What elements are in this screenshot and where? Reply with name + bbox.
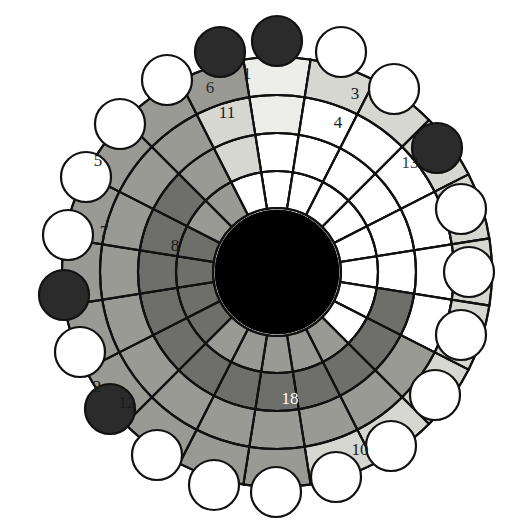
sector-cell-r1-s5 [377,250,416,293]
center-hub [215,210,339,334]
node-10[interactable] [251,467,301,517]
node-1[interactable] [316,27,366,77]
sector-cell-r2-s0 [249,95,304,135]
node-3[interactable] [412,123,462,173]
label-10: 10 [352,440,369,459]
node-9[interactable] [311,452,361,502]
node-8[interactable] [366,421,416,471]
label-11: 11 [219,103,235,122]
node-7[interactable] [410,370,460,420]
radial-ring-diagram: 163114135782121810 [0,0,515,525]
figure-canvas: 163114135782121810 [0,0,515,525]
node-20[interactable] [195,27,245,77]
label-3: 3 [351,84,360,103]
label-12: 12 [119,393,136,412]
node-18[interactable] [95,99,145,149]
node-15[interactable] [39,270,89,320]
label-4: 4 [334,113,343,132]
label-13: 13 [402,153,419,172]
label-1: 1 [243,64,252,83]
label-6: 6 [206,78,215,97]
node-17[interactable] [61,152,111,202]
sector-cell-r1-s15 [138,250,177,293]
label-18: 18 [282,389,299,408]
sector-cell-r2-s10 [249,409,304,449]
node-19[interactable] [142,55,192,105]
node-4[interactable] [436,184,486,234]
node-11[interactable] [189,460,239,510]
node-12[interactable] [132,430,182,480]
label-7: 7 [100,222,109,241]
label-5: 5 [94,151,103,170]
label-2: 2 [93,377,102,396]
sector-cell-r2-s15 [100,244,140,299]
sector-cell-r1-s0 [255,133,298,172]
node-5[interactable] [444,247,494,297]
label-8: 8 [171,236,180,255]
node-6[interactable] [436,310,486,360]
node-16[interactable] [43,210,93,260]
node-14[interactable] [55,327,105,377]
node-0[interactable] [252,16,302,66]
node-2[interactable] [369,64,419,114]
